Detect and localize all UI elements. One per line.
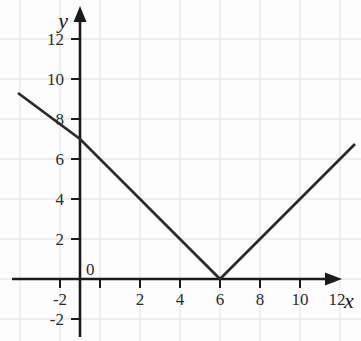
graph-figure: 12 10 8 6 4 2 -2 0 -2 2 4 6 8 10 12 y x	[0, 0, 361, 341]
x-tick-label-neg2: -2	[53, 290, 67, 309]
y-tick-label-4: 4	[56, 190, 65, 209]
x-tick-label-8: 8	[256, 290, 265, 309]
x-tick-label-6: 6	[216, 290, 225, 309]
y-tick-label-8: 8	[56, 110, 65, 129]
x-tick-label-2: 2	[136, 290, 145, 309]
y-tick-label-2: 2	[56, 230, 65, 249]
y-tick-label-6: 6	[56, 150, 65, 169]
x-axis-label: x	[343, 288, 354, 313]
x-tick-label-4: 4	[176, 290, 185, 309]
y-axis-label: y	[56, 8, 68, 33]
y-tick-label-neg2: -2	[50, 310, 64, 329]
coordinate-plane-chart: 12 10 8 6 4 2 -2 0 -2 2 4 6 8 10 12 y x	[0, 0, 361, 341]
origin-label: 0	[86, 260, 95, 279]
x-tick-label-10: 10	[292, 290, 309, 309]
y-tick-label-10: 10	[47, 70, 64, 89]
x-tick-label-12: 12	[329, 290, 346, 309]
